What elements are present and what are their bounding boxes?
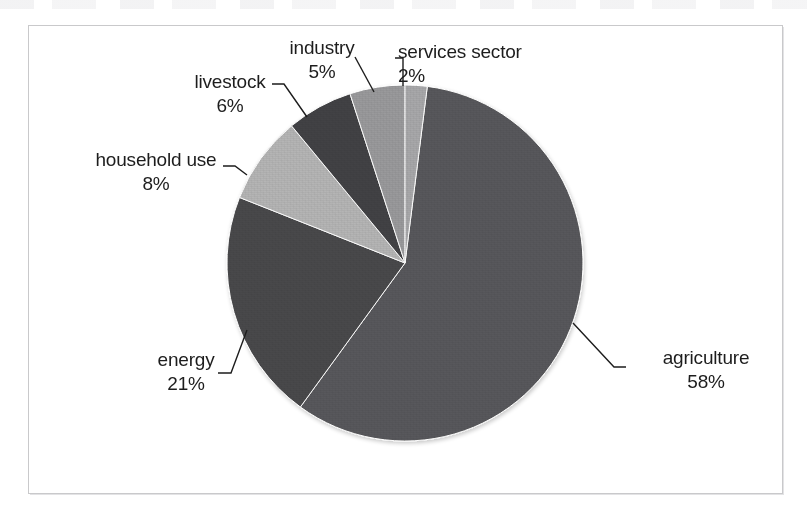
- pie-label-industry-percent: 5%: [267, 60, 377, 84]
- pie-label-household-use: household use 8%: [66, 148, 246, 196]
- figure-page: industry 5% services sector 2% livestock…: [0, 0, 807, 519]
- pie-label-services-sector-percent: 2%: [398, 64, 588, 88]
- pie-label-energy: energy 21%: [140, 348, 232, 396]
- pie-label-agriculture-name: agriculture: [626, 346, 786, 370]
- pie-label-services-sector-name: services sector: [398, 40, 588, 64]
- pie-label-household-use-percent: 8%: [66, 172, 246, 196]
- pie-label-agriculture: agriculture 58%: [626, 346, 786, 394]
- pie-label-industry-name: industry: [267, 36, 377, 60]
- pie-label-livestock: livestock 6%: [178, 70, 282, 118]
- pie-label-energy-name: energy: [140, 348, 232, 372]
- pie-label-livestock-name: livestock: [178, 70, 282, 94]
- pie-label-energy-percent: 21%: [140, 372, 232, 396]
- pie-label-household-use-name: household use: [66, 148, 246, 172]
- pie-label-industry: industry 5%: [267, 36, 377, 84]
- pie-label-agriculture-percent: 58%: [626, 370, 786, 394]
- pie-label-services-sector: services sector 2%: [398, 40, 588, 88]
- pie-label-livestock-percent: 6%: [178, 94, 282, 118]
